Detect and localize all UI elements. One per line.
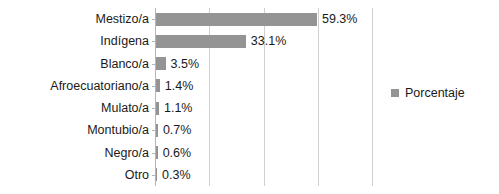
bar [156, 57, 166, 70]
bar [156, 79, 160, 92]
axis-tick [152, 108, 155, 109]
bar [156, 102, 159, 115]
category-label: Mulato/a [101, 97, 149, 119]
axis-tick [152, 86, 155, 87]
bar-row: Negro/a0.6% [155, 142, 370, 164]
category-label: Negro/a [105, 142, 149, 164]
data-label: 3.5% [171, 53, 200, 75]
legend-label-porcentaje: Porcentaje [405, 86, 465, 100]
bar [156, 146, 158, 159]
axis-tick [152, 41, 155, 42]
plot-area: Mestizo/a59.3%Indígena33.1%Blanco/a3.5%A… [155, 8, 370, 186]
bar-row: Mestizo/a59.3% [155, 8, 370, 30]
bar-row: Montubio/a0.7% [155, 119, 370, 141]
category-label: Mestizo/a [96, 8, 150, 30]
legend-swatch-porcentaje [391, 89, 399, 97]
data-label: 0.3% [162, 164, 191, 186]
bar-row: Afroecuatoriano/a1.4% [155, 75, 370, 97]
category-label: Otro [125, 164, 149, 186]
data-label: 33.1% [251, 30, 286, 52]
bar-row: Indígena33.1% [155, 30, 370, 52]
axis-tick [152, 175, 155, 176]
chart-legend: Porcentaje [391, 86, 465, 100]
data-label: 1.4% [165, 75, 194, 97]
data-label: 0.6% [163, 142, 192, 164]
bar-row: Blanco/a3.5% [155, 53, 370, 75]
axis-tick [152, 130, 155, 131]
bar [156, 13, 317, 26]
category-label: Blanco/a [100, 53, 149, 75]
bar-chart: Mestizo/a59.3%Indígena33.1%Blanco/a3.5%A… [0, 0, 499, 194]
gridline [372, 8, 373, 186]
axis-tick [152, 153, 155, 154]
data-label: 1.1% [164, 97, 193, 119]
data-label: 0.7% [163, 119, 192, 141]
bar [156, 124, 158, 137]
bar-row: Otro0.3% [155, 164, 370, 186]
bar [156, 35, 246, 48]
axis-tick [152, 64, 155, 65]
bar-row: Mulato/a1.1% [155, 97, 370, 119]
axis-tick [152, 19, 155, 20]
category-label: Montubio/a [87, 119, 149, 141]
data-label: 59.3% [322, 8, 357, 30]
category-label: Indígena [100, 30, 149, 52]
bar [156, 168, 157, 181]
category-label: Afroecuatoriano/a [50, 75, 149, 97]
